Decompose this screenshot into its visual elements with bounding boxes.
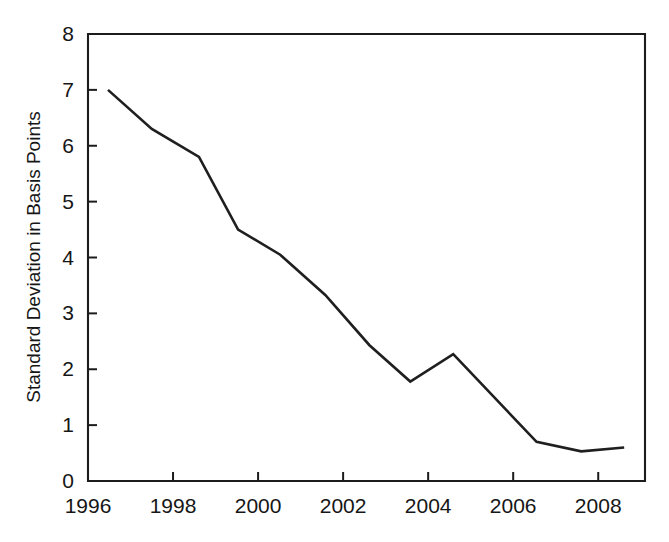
y-axis-tick-labels: 012345678	[62, 22, 74, 492]
y-tick-label: 8	[62, 22, 74, 45]
line-chart: 012345678 1996199820002002200420062008 S…	[0, 0, 669, 542]
y-axis-title: Standard Deviation in Basis Points	[23, 111, 44, 403]
y-tick-label: 6	[62, 134, 74, 157]
data-series-line	[108, 90, 624, 452]
y-tick-label: 4	[62, 246, 74, 269]
x-tick-label: 2006	[490, 494, 537, 517]
y-tick-label: 2	[62, 357, 74, 380]
chart-page: 012345678 1996199820002002200420062008 S…	[0, 0, 669, 542]
x-axis-ticks	[88, 472, 598, 481]
y-tick-label: 1	[62, 413, 74, 436]
x-tick-label: 2008	[575, 494, 622, 517]
y-tick-label: 5	[62, 190, 74, 213]
x-tick-label: 2002	[320, 494, 367, 517]
data-series-group	[108, 90, 624, 452]
x-tick-label: 2004	[405, 494, 452, 517]
x-tick-label: 2000	[235, 494, 282, 517]
y-tick-label: 0	[62, 469, 74, 492]
x-axis-tick-labels: 1996199820002002200420062008	[65, 494, 622, 517]
y-tick-label: 3	[62, 301, 74, 324]
y-axis-ticks	[88, 34, 97, 481]
x-tick-label: 1996	[65, 494, 112, 517]
x-tick-label: 1998	[150, 494, 197, 517]
plot-frame	[88, 34, 645, 481]
y-tick-label: 7	[62, 78, 74, 101]
